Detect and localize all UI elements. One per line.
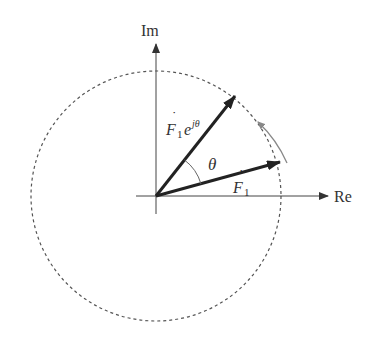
svg-text:e: e [184,121,191,138]
vector-f1-rotated [156,96,235,196]
rotation-arrow-icon [258,122,287,163]
angle-arc [185,160,202,184]
imag-axis-label: Im [141,22,159,39]
real-axis-label: Re [334,188,352,205]
phasor-diagram: Im Re θ ˙ F 1 ˙ F 1 e jθ [0,0,378,344]
svg-text:F: F [165,121,176,138]
svg-text:F: F [232,179,243,196]
svg-text:1: 1 [177,128,183,140]
vector-f1 [156,162,280,196]
vector-f1-rotated-label: ˙ F 1 e jθ [165,108,200,140]
angle-label: θ [208,155,216,174]
svg-text:jθ: jθ [190,118,200,129]
svg-text:1: 1 [244,186,250,198]
